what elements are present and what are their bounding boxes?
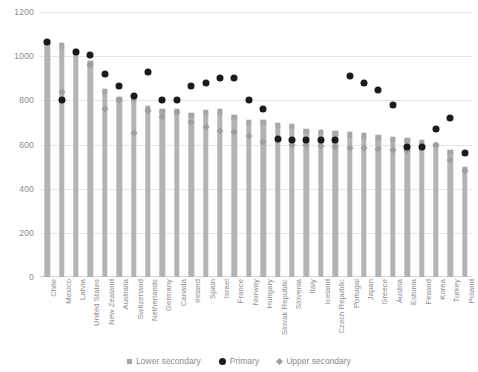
chart-column xyxy=(458,12,472,277)
x-axis-category-label: France xyxy=(237,279,245,303)
x-axis-category-label: Ireland xyxy=(194,279,202,303)
marker-primary xyxy=(44,39,51,46)
bar-lower-secondary xyxy=(404,140,409,277)
chart-container: 020040060080010001200 ChileMexicoLatviaU… xyxy=(0,0,478,372)
marker-lower-secondary xyxy=(448,149,453,154)
chart-column xyxy=(285,12,299,277)
bar-lower-secondary xyxy=(246,122,251,277)
y-axis-tick-label: 0 xyxy=(0,272,34,282)
x-axis-category-label: Chile xyxy=(50,279,58,297)
marker-lower-secondary xyxy=(59,43,64,48)
marker-primary xyxy=(173,97,180,104)
bar-lower-secondary xyxy=(232,117,237,277)
marker-lower-secondary xyxy=(260,119,265,124)
bar-lower-secondary xyxy=(44,42,49,277)
marker-primary xyxy=(159,97,166,104)
bar-lower-secondary xyxy=(203,112,208,277)
chart-column xyxy=(443,12,457,277)
marker-lower-secondary xyxy=(404,137,409,142)
y-axis: 020040060080010001200 xyxy=(0,12,34,277)
marker-primary xyxy=(332,136,339,143)
chart-column xyxy=(83,12,97,277)
bar-lower-secondary xyxy=(145,108,150,277)
y-axis-tick-label: 1200 xyxy=(0,7,34,17)
marker-primary xyxy=(274,135,281,142)
x-axis-category-label: Korea xyxy=(439,279,447,300)
chart-column xyxy=(400,12,414,277)
x-axis-category-label: Slovak Republic xyxy=(281,279,289,335)
marker-primary xyxy=(389,101,396,108)
marker-primary xyxy=(447,114,454,121)
x-axis-category-label: New Zealand xyxy=(108,279,116,325)
chart-column xyxy=(141,12,155,277)
bar-lower-secondary xyxy=(419,142,424,277)
legend-item[interactable]: Lower secondary xyxy=(127,356,201,366)
marker-lower-secondary xyxy=(376,135,381,140)
chart-column xyxy=(357,12,371,277)
chart-column xyxy=(242,12,256,277)
chart-column xyxy=(342,12,356,277)
chart-column xyxy=(429,12,443,277)
x-axis-category-label: Portugal xyxy=(353,279,361,308)
bar-lower-secondary xyxy=(462,169,467,277)
bar-lower-secondary xyxy=(131,99,136,277)
x-axis-category-label: Turkey xyxy=(453,279,461,303)
marker-lower-secondary xyxy=(289,124,294,129)
marker-primary xyxy=(303,137,310,144)
x-axis-category-label: Switzerland xyxy=(137,279,145,319)
y-axis-tick-label: 800 xyxy=(0,95,34,105)
chart-column xyxy=(112,12,126,277)
bar-lower-secondary xyxy=(376,138,381,277)
bar-lower-secondary xyxy=(217,112,222,277)
bar-lower-secondary xyxy=(304,131,309,277)
chart-column xyxy=(270,12,284,277)
legend-label: Primary xyxy=(230,356,259,366)
x-axis-category-label: Slovenia xyxy=(295,279,303,309)
x-axis-category-label: Greece xyxy=(381,279,389,305)
y-axis-tick-label: 200 xyxy=(0,228,34,238)
x-axis-category-label: Austria xyxy=(396,279,404,303)
chart-column xyxy=(184,12,198,277)
x-axis-category-label: United States xyxy=(93,279,101,326)
chart-column xyxy=(170,12,184,277)
chart-column xyxy=(314,12,328,277)
diamond-marker-icon xyxy=(276,357,283,364)
bar-lower-secondary xyxy=(73,52,78,277)
chart-column xyxy=(198,12,212,277)
marker-lower-secondary xyxy=(390,137,395,142)
marker-primary xyxy=(360,80,367,87)
marker-primary xyxy=(58,97,65,104)
x-axis-category-label: Israel xyxy=(223,279,231,298)
x-axis-category-label: Finland xyxy=(425,279,433,305)
chart-column xyxy=(256,12,270,277)
square-marker-icon xyxy=(127,359,132,364)
marker-lower-secondary xyxy=(304,129,309,134)
x-axis-category-label: Estonia xyxy=(410,279,418,305)
x-axis-category-label: Hungary xyxy=(266,279,274,308)
marker-primary xyxy=(245,97,252,104)
chart-column xyxy=(54,12,68,277)
marker-primary xyxy=(130,92,137,99)
marker-lower-secondary xyxy=(318,130,323,135)
x-axis-category-label: Czech Republic xyxy=(338,279,346,334)
chart-column xyxy=(126,12,140,277)
x-axis-category-label: Germany xyxy=(165,279,173,311)
chart-column xyxy=(213,12,227,277)
legend-item[interactable]: Upper secondary xyxy=(277,356,351,366)
marker-primary xyxy=(116,83,123,90)
marker-primary xyxy=(72,48,79,55)
chart-column xyxy=(40,12,54,277)
bar-lower-secondary xyxy=(116,99,121,277)
marker-lower-secondary xyxy=(332,131,337,136)
marker-primary xyxy=(144,69,151,76)
chart-column xyxy=(386,12,400,277)
x-axis-category-label: Italy xyxy=(309,279,317,293)
x-axis-category-label: Iceland xyxy=(324,279,332,304)
bar-lower-secondary xyxy=(332,133,337,277)
legend-item[interactable]: Primary xyxy=(219,356,259,366)
bar-lower-secondary xyxy=(275,125,280,277)
chart-column xyxy=(328,12,342,277)
x-axis-category-label: Mexico xyxy=(65,279,73,304)
legend-label: Lower secondary xyxy=(136,356,201,366)
marker-primary xyxy=(461,149,468,156)
